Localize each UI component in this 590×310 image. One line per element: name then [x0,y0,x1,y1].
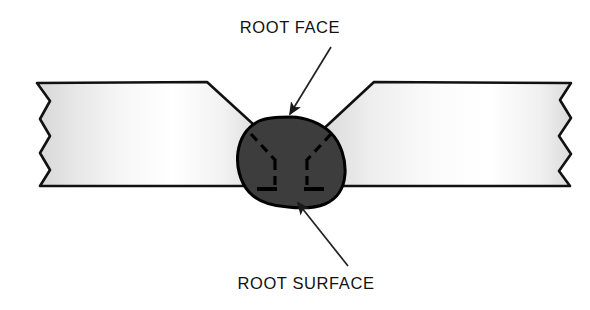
weld-bead [237,117,345,208]
root-surface-callout: ROOT SURFACE [237,203,374,292]
root-face-leader-line [290,47,331,114]
weld-bead-shape [237,117,345,208]
right-plate [318,82,571,186]
right-plate-body [318,82,571,186]
root-surface-leader-line [298,203,348,266]
left-plate-body [37,82,264,186]
root-surface-label: ROOT SURFACE [237,274,374,292]
diagram-canvas: ROOT FACE ROOT SURFACE [0,0,590,310]
left-plate [37,82,264,186]
root-face-label: ROOT FACE [240,18,340,36]
weld-cross-section-diagram: ROOT FACE ROOT SURFACE [0,0,590,310]
root-face-callout: ROOT FACE [240,18,340,114]
